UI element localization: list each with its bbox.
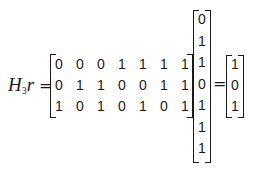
result-entry: 1 xyxy=(229,56,241,72)
vector-entry: 1 xyxy=(196,119,208,135)
matrix-entry: 0 xyxy=(53,56,65,72)
equals-sign-result: = xyxy=(213,74,226,93)
matrix-entry: 0 xyxy=(53,77,65,93)
matrix-entry: 0 xyxy=(74,98,86,114)
matrix-entry: 0 xyxy=(74,56,86,72)
vector-entry: 0 xyxy=(196,76,208,92)
matrix-entry: 1 xyxy=(95,77,107,93)
matrix-entry: 1 xyxy=(179,98,191,114)
matrix-entry: 1 xyxy=(158,56,170,72)
matrix-entry: 1 xyxy=(74,77,86,93)
matrix-entry: 1 xyxy=(95,98,107,114)
vector-entry: 1 xyxy=(196,140,208,156)
matrix-entry: 0 xyxy=(137,77,149,93)
matrix-symbol: H xyxy=(8,74,22,95)
matrix-entry: 1 xyxy=(179,56,191,72)
matrix-entry: 1 xyxy=(53,98,65,114)
vector-symbol: r xyxy=(27,74,34,95)
result-entry: 1 xyxy=(229,98,241,114)
vector-entry: 0 xyxy=(196,11,208,27)
matrix-entry: 0 xyxy=(158,98,170,114)
vector-entry: 1 xyxy=(196,54,208,70)
matrix-entry: 0 xyxy=(116,77,128,93)
matrix-entry: 1 xyxy=(158,77,170,93)
vector-entry: 1 xyxy=(196,97,208,113)
matrix-entry: 0 xyxy=(116,98,128,114)
matrix-entry: 1 xyxy=(137,56,149,72)
vector-entry: 1 xyxy=(196,33,208,49)
lhs-expression: H3r = xyxy=(8,74,52,96)
matrix-entry: 0 xyxy=(95,56,107,72)
matrix-entry: 1 xyxy=(116,56,128,72)
matrix-entry: 1 xyxy=(137,98,149,114)
result-entry: 0 xyxy=(229,77,241,93)
matrix-entry: 1 xyxy=(179,77,191,93)
